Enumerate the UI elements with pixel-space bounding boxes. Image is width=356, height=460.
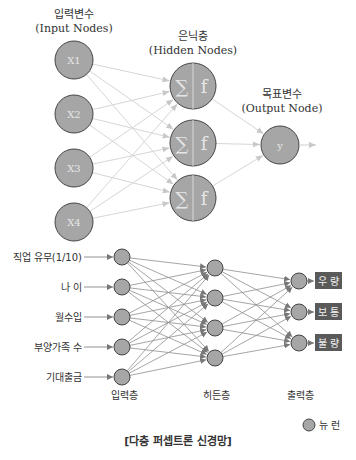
- svg-text:기대출금: 기대출금: [46, 372, 82, 383]
- input-layer: 직업 유무(1/10) 나 이 월수입 부양가족 수 기대출금: [13, 249, 130, 385]
- neuron: [114, 339, 130, 355]
- svg-text:우 량: 우 량: [318, 276, 339, 287]
- hidden-layer-label: 히든층: [203, 390, 230, 401]
- hidden-title-ko: 은닉층: [178, 30, 208, 43]
- sum-icon: ∑: [176, 76, 189, 97]
- output-layer: 우 량 보 통 불 량: [291, 272, 342, 351]
- top-network: 입력변수 (Input Nodes) 은닉층 (Hidden Nodes) 목표…: [35, 8, 322, 241]
- svg-text:X4: X4: [67, 217, 80, 228]
- svg-text:보 통: 보 통: [318, 307, 339, 318]
- output-title-ko: 목표변수: [262, 88, 302, 101]
- neuron-legend-icon: [303, 419, 315, 431]
- neuron: [114, 279, 130, 295]
- hidden-node-3: ∑ f: [170, 175, 216, 221]
- output-class-bad: 불 량: [291, 334, 342, 351]
- legend: 뉴 런: [303, 419, 340, 431]
- hidden-layer: [207, 260, 223, 366]
- svg-text:월수입: 월수입: [55, 311, 82, 323]
- neuron: [114, 249, 130, 265]
- output-class-good: 우 량: [291, 272, 342, 289]
- neuron: [207, 290, 223, 306]
- input-node-x3: X3: [55, 149, 93, 187]
- input-node-x2: X2: [55, 95, 93, 133]
- hidden-node-2: ∑ f: [170, 120, 216, 166]
- neuron: [114, 309, 130, 325]
- output-class-normal: 보 통: [291, 303, 342, 320]
- svg-text:X1: X1: [67, 55, 80, 66]
- neural-network-diagram: 입력변수 (Input Nodes) 은닉층 (Hidden Nodes) 목표…: [0, 0, 356, 460]
- input-title-en: (Input Nodes): [35, 22, 113, 35]
- input-feature-income: 월수입: [55, 309, 130, 325]
- svg-text:y: y: [276, 140, 283, 151]
- input-feature-job: 직업 유무(1/10): [13, 249, 130, 265]
- bottom-network: 직업 유무(1/10) 나 이 월수입 부양가족 수 기대출금: [13, 249, 342, 448]
- legend-label: 뉴 런: [319, 420, 340, 431]
- neuron: [207, 350, 223, 366]
- figure-caption: [다층 퍼셉트론 신경망]: [124, 434, 232, 448]
- hidden-node-1: ∑ f: [170, 63, 216, 109]
- input-feature-loan: 기대출금: [46, 369, 130, 385]
- svg-text:직업 유무(1/10): 직업 유무(1/10): [13, 251, 83, 263]
- input-layer-label: 입력층: [111, 389, 138, 401]
- sum-icon: ∑: [176, 188, 189, 209]
- output-layer-label: 출력층: [287, 390, 314, 401]
- svg-text:X3: X3: [67, 163, 80, 174]
- svg-text:부양가족 수: 부양가족 수: [34, 342, 82, 353]
- neuron: [207, 260, 223, 276]
- neuron: [114, 369, 130, 385]
- svg-text:X2: X2: [67, 109, 80, 120]
- svg-text:나 이: 나 이: [61, 282, 82, 293]
- neuron: [291, 304, 307, 320]
- input-node-x4: X4: [55, 203, 93, 241]
- neuron: [207, 320, 223, 336]
- input-feature-dependents: 부양가족 수: [34, 339, 130, 355]
- input-title-ko: 입력변수: [54, 8, 94, 21]
- hidden-title-en: (Hidden Nodes): [149, 44, 237, 57]
- neuron: [291, 335, 307, 351]
- svg-text:불 량: 불 량: [318, 338, 339, 349]
- neuron: [291, 273, 307, 289]
- sum-icon: ∑: [176, 133, 189, 154]
- input-hidden-connections: [86, 64, 177, 218]
- output-title-en: (Output Node): [242, 102, 323, 115]
- output-node-y: y: [261, 126, 316, 164]
- input-feature-age: 나 이: [61, 279, 130, 295]
- input-node-x1: X1: [55, 41, 93, 79]
